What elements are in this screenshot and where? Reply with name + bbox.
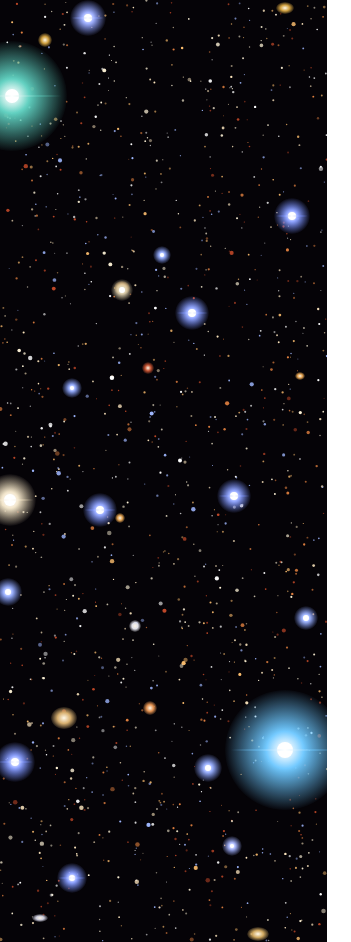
- star-core-small-star-bottom: [230, 844, 234, 848]
- galaxy-white-galaxy: [129, 620, 141, 632]
- galaxy-gold-galaxy-top-right: [276, 2, 294, 14]
- galaxy-red-galaxy: [142, 362, 154, 374]
- deep-field-image: [0, 0, 327, 942]
- diffraction-spike-icon: [0, 96, 62, 97]
- star-core-blue-star-right-edge: [303, 615, 309, 621]
- diffraction-spike-icon: [276, 216, 308, 217]
- galaxy-edge-on-galaxy: [32, 914, 48, 922]
- white-margin: [327, 0, 351, 942]
- galaxy-gold-galaxy-top: [38, 33, 52, 47]
- galaxy-orange-galaxy-right: [295, 372, 305, 380]
- star-core-blue-star-bottom: [205, 765, 211, 771]
- galaxy-orange-galaxy-mid: [115, 513, 125, 523]
- starfield: [0, 0, 327, 942]
- star-core-white-star: [119, 287, 125, 293]
- diffraction-spike-icon: [85, 510, 116, 511]
- diffraction-spike-icon: [72, 18, 104, 19]
- star-core-blue-star-left-edge: [5, 589, 11, 595]
- diffraction-spike-icon: [59, 878, 86, 879]
- galaxy-spiral-galaxy-tail: [51, 707, 77, 729]
- star-core-small-blue-star-2: [70, 386, 74, 390]
- galaxy-gold-galaxy-bottom: [247, 927, 269, 941]
- diffraction-spike-icon: [177, 313, 208, 314]
- diffraction-spike-icon: [0, 762, 33, 763]
- diffraction-spike-icon: [219, 496, 250, 497]
- diffraction-spike-icon: [231, 750, 327, 751]
- diffraction-spike-icon: [0, 500, 33, 501]
- star-core-small-blue-star: [160, 253, 164, 257]
- galaxy-orange-galaxy-lower: [143, 701, 157, 715]
